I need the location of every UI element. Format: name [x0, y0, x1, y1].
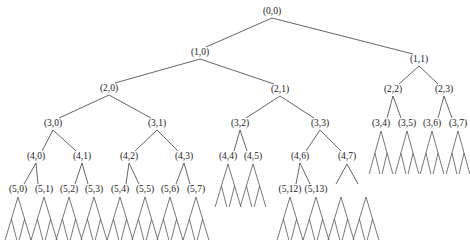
node-label-2_0: (2,0) — [100, 84, 118, 94]
node-label-1_1: (1,1) — [410, 55, 428, 65]
fan-4_7-1-rr — [373, 219, 379, 240]
fan-4_7-0-l — [334, 197, 341, 219]
fan-5_3-rr — [101, 219, 107, 240]
fan-4_4-l — [221, 164, 228, 186]
fan-5_0-ll — [5, 219, 11, 240]
fan-5_5-ll — [132, 219, 138, 240]
fan-4_5-rl — [254, 186, 259, 207]
fan-3_5-rr — [413, 153, 419, 174]
edge-4_2-5_5 — [129, 163, 139, 184]
fan-3_5-ll — [395, 153, 401, 174]
node-label-4_4: (4,4) — [219, 152, 237, 162]
fan-3_6-lr — [426, 153, 431, 174]
node-label-5_13: (5,13) — [305, 185, 328, 195]
fan-5_7-r — [196, 197, 203, 219]
fan-3_7-rr — [464, 153, 470, 174]
fan-5_12-r — [290, 197, 297, 219]
fan-5_12-rr — [297, 219, 303, 240]
fan-4_5-r — [253, 164, 260, 186]
fan-5_7-ll — [183, 219, 189, 240]
fan-5_6-rr — [177, 219, 183, 240]
node-label-4_0: (4,0) — [27, 152, 45, 162]
fan-5_3-ll — [81, 219, 87, 240]
fan-4_7-1-lr — [359, 219, 364, 240]
fan-5_13-lr — [309, 219, 314, 240]
edge-3_1-4_2 — [135, 130, 157, 151]
fan-5_6-rl — [171, 219, 176, 240]
fan-5_5-rl — [146, 219, 151, 240]
edge-2_0-3_0 — [59, 95, 109, 118]
fan-4_7-1-ll — [353, 219, 359, 240]
edge-1_1-2_2 — [399, 66, 419, 84]
node-label-3_5: (3,5) — [398, 119, 416, 129]
fan-4_4-ll — [215, 186, 221, 207]
fan-4_7-0-r — [341, 197, 348, 219]
node-label-5_2: (5,2) — [60, 185, 78, 195]
fan-5_4-rl — [121, 219, 126, 240]
fan-5_3-lr — [87, 219, 92, 240]
node-label-1_0: (1,0) — [191, 48, 209, 58]
fan-5_12-l — [283, 197, 290, 219]
fan-5_2-lr — [62, 219, 67, 240]
node-label-5_7: (5,7) — [187, 185, 205, 195]
edge-4_3-5_6 — [176, 163, 184, 184]
edge-3_3-4_6 — [306, 130, 320, 151]
fan-5_5-r — [145, 197, 152, 219]
fan-4_4-rr — [235, 186, 241, 207]
fan-5_13-l — [309, 197, 316, 219]
node-label-2_2: (2,2) — [384, 85, 402, 95]
fan-4_5-rr — [260, 186, 266, 207]
fan-3_7-l — [452, 131, 458, 153]
fan-5_0-rl — [19, 219, 24, 240]
fan-3_6-rr — [438, 153, 444, 174]
fan-3_5-l — [401, 131, 407, 153]
node-label-3_4: (3,4) — [372, 119, 390, 129]
fan-5_0-lr — [11, 219, 16, 240]
fan-5_12-ll — [277, 219, 283, 240]
node-label-5_0: (5,0) — [9, 185, 27, 195]
fan-4_4-r — [228, 164, 235, 186]
node-label-3_7: (3,7) — [449, 119, 467, 129]
edge-3_0-4_1 — [53, 130, 76, 151]
fan-4_7-1-rl — [367, 219, 372, 240]
fan-5_3-rl — [95, 219, 100, 240]
fan-3_6-l — [426, 131, 432, 153]
fan-5_3-l — [87, 197, 94, 219]
fan-5_7-l — [189, 197, 196, 219]
fan-4_7-0-rl — [342, 219, 347, 240]
fan-3_7-ll — [446, 153, 452, 174]
fan-5_1-lr — [37, 219, 42, 240]
fan-3_4-rl — [382, 153, 387, 174]
fan-4_7-0-rr — [348, 219, 354, 240]
fan-4_4-rl — [229, 186, 234, 207]
edge-4_6-5_12 — [296, 163, 300, 184]
fan-3_4-ll — [369, 153, 375, 174]
fan-5_1-l — [37, 197, 44, 219]
node-label-4_5: (4,5) — [244, 152, 262, 162]
fan-5_12-rl — [291, 219, 296, 240]
fan-3_4-lr — [375, 153, 380, 174]
fan-5_1-rr — [51, 219, 57, 240]
edge-4_2-5_4 — [126, 163, 129, 184]
fan-5_1-r — [44, 197, 51, 219]
edge-2_1-3_2 — [246, 96, 280, 118]
edge-4_7-right — [347, 164, 358, 184]
node-label-5_12: (5,12) — [279, 185, 302, 195]
edge-4_6-5_13 — [300, 163, 310, 184]
edge-2_1-3_3 — [280, 96, 314, 118]
fan-5_4-ll — [107, 219, 113, 240]
fan-3_7-r — [458, 131, 464, 153]
edge-2_2-3_4 — [387, 96, 393, 118]
fan-5_5-rr — [152, 219, 158, 240]
edge-4_1-5_2 — [75, 163, 82, 184]
fan-5_6-r — [170, 197, 177, 219]
fan-3_7-lr — [452, 153, 457, 174]
node-label-5_5: (5,5) — [136, 185, 154, 195]
node-label-3_3: (3,3) — [311, 119, 329, 129]
edge-1_0-2_1 — [200, 59, 274, 84]
fan-4_7-0-lr — [334, 219, 339, 240]
fan-5_4-lr — [113, 219, 118, 240]
fan-5_1-ll — [31, 219, 37, 240]
edge-4_3-5_7 — [184, 163, 190, 184]
fan-5_2-ll — [56, 219, 62, 240]
